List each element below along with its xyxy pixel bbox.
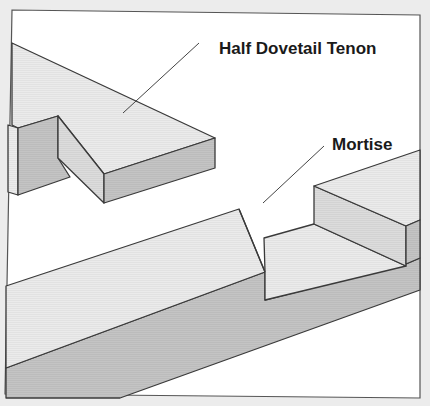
mortise-raised-side bbox=[406, 220, 420, 264]
tenon-left-strip bbox=[8, 125, 18, 195]
tenon-label: Half Dovetail Tenon bbox=[219, 39, 376, 58]
mortise-label: Mortise bbox=[332, 135, 392, 154]
joint-diagram: Half Dovetail Tenon Mortise bbox=[0, 0, 430, 406]
